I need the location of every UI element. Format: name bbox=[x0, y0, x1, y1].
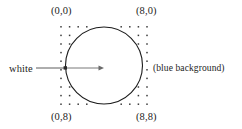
corner-label-bottom-right: (8,8) bbox=[136, 112, 157, 123]
grid-dot bbox=[138, 86, 140, 88]
grid-dot bbox=[138, 26, 140, 28]
grid-dot bbox=[77, 26, 79, 28]
grid-dot bbox=[120, 103, 122, 105]
circle-outline bbox=[66, 27, 143, 104]
grid-dot bbox=[146, 95, 148, 97]
grid-dot bbox=[69, 103, 71, 105]
flood-fill-diagram: (0,0) (8,0) (0,8) (8,8) white (blue back… bbox=[0, 0, 242, 129]
seed-pixel-marker bbox=[64, 66, 67, 69]
corner-label-top-left: (0,0) bbox=[51, 6, 72, 17]
grid-dot bbox=[60, 60, 62, 62]
white-seed-label: white bbox=[9, 64, 33, 75]
grid-dot bbox=[138, 35, 140, 37]
grid-dot bbox=[69, 95, 71, 97]
grid-dot bbox=[138, 43, 140, 45]
corner-label-bottom-left: (0,8) bbox=[51, 112, 72, 123]
grid-dot bbox=[69, 35, 71, 37]
grid-dot bbox=[69, 86, 71, 88]
grid-dot bbox=[69, 43, 71, 45]
grid-dot bbox=[60, 95, 62, 97]
grid-dot bbox=[146, 60, 148, 62]
grid-dot bbox=[60, 35, 62, 37]
grid-dot bbox=[60, 103, 62, 105]
grid-dot bbox=[146, 43, 148, 45]
grid-dot bbox=[138, 95, 140, 97]
grid-dot bbox=[146, 69, 148, 71]
grid-dot bbox=[60, 78, 62, 80]
grid-dot bbox=[60, 69, 62, 71]
grid-dot bbox=[146, 86, 148, 88]
grid-dot bbox=[60, 43, 62, 45]
pixel-dot-grid bbox=[60, 26, 148, 105]
grid-dot bbox=[120, 26, 122, 28]
grid-dot bbox=[129, 26, 131, 28]
grid-dot bbox=[146, 26, 148, 28]
grid-dot bbox=[77, 103, 79, 105]
grid-dot bbox=[86, 103, 88, 105]
corner-label-top-right: (8,0) bbox=[136, 6, 157, 17]
grid-dot bbox=[146, 52, 148, 54]
grid-dot bbox=[129, 103, 131, 105]
blue-background-label: (blue background) bbox=[153, 64, 225, 74]
grid-dot bbox=[60, 52, 62, 54]
grid-dot bbox=[138, 103, 140, 105]
grid-dot bbox=[146, 103, 148, 105]
grid-dot bbox=[86, 26, 88, 28]
grid-dot bbox=[60, 86, 62, 88]
grid-dot bbox=[146, 78, 148, 80]
grid-dot bbox=[146, 35, 148, 37]
seed-arrow-head bbox=[99, 66, 105, 71]
grid-dot bbox=[60, 26, 62, 28]
grid-dot bbox=[69, 26, 71, 28]
